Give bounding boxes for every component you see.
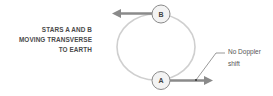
star-b-label: B <box>158 11 163 18</box>
annotation-leader <box>195 53 225 81</box>
velocity-arrow-a <box>170 76 213 85</box>
orbit-ellipse <box>117 14 195 80</box>
star-b: B <box>152 5 170 23</box>
annotation-line-2: shift <box>228 58 261 70</box>
no-doppler-annotation: No Doppler shift <box>228 46 261 70</box>
star-a: A <box>152 72 170 90</box>
star-a-label: A <box>158 77 163 84</box>
velocity-arrow-b <box>112 9 152 18</box>
annotation-line-1: No Doppler <box>228 46 261 58</box>
